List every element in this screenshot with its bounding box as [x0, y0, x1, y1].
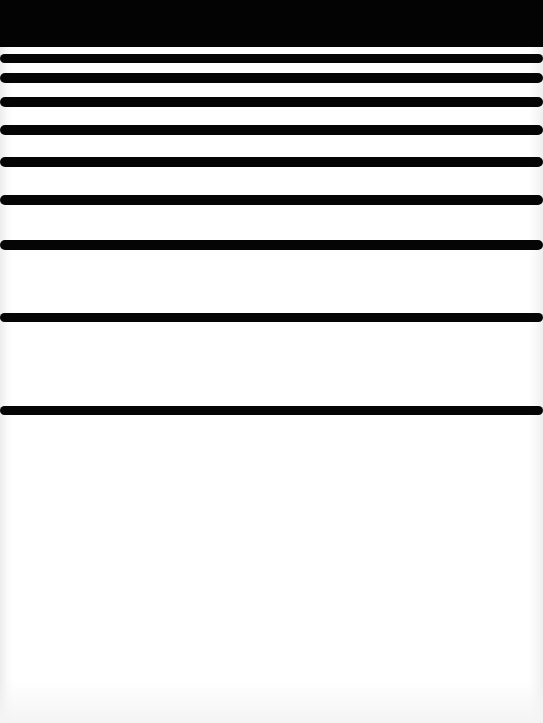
bottom-shadow [0, 680, 543, 723]
stripe [0, 240, 543, 250]
stripe [0, 97, 543, 107]
stripe [0, 54, 543, 63]
stripe [0, 313, 543, 322]
stripe [0, 125, 543, 135]
stripe [0, 157, 543, 167]
top-black-band [0, 0, 543, 47]
stripe [0, 73, 543, 83]
stripe [0, 406, 543, 415]
white-background [0, 0, 543, 723]
stripe [0, 195, 543, 205]
